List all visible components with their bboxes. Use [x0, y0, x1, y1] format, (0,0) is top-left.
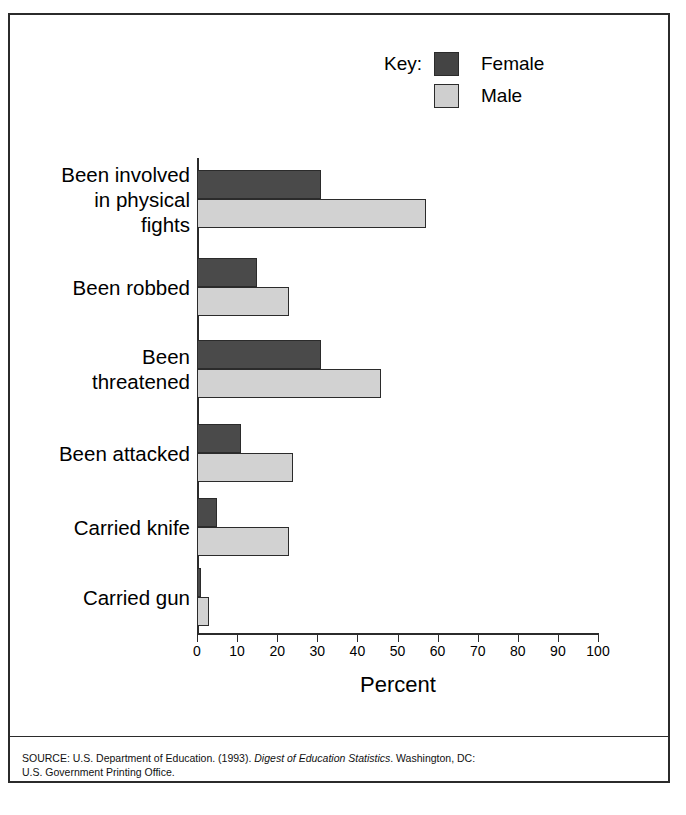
x-axis-tick: [197, 635, 198, 642]
x-axis-tick-label: 10: [217, 643, 257, 659]
x-axis-tick-label: 30: [297, 643, 337, 659]
x-axis-tick-label: 70: [458, 643, 498, 659]
source-line1-suffix: . Washington, DC:: [390, 752, 475, 764]
x-axis-tick: [277, 635, 278, 642]
category-label: Been attacked: [5, 441, 190, 466]
plot-area: [197, 158, 598, 633]
category-label-line: Been attacked: [5, 441, 190, 466]
legend-row-female: Key: Female: [372, 48, 622, 80]
x-axis-tick-label: 90: [538, 643, 578, 659]
bar-male: [197, 453, 293, 482]
source-line1-italic: Digest of Education Statistics: [254, 752, 390, 764]
bar-female: [197, 170, 321, 199]
x-axis-tick: [518, 635, 519, 642]
x-axis-tick-label: 100: [578, 643, 618, 659]
category-label: Carried gun: [5, 585, 190, 610]
bar-female: [197, 340, 321, 369]
category-label: Beenthreatened: [5, 344, 190, 394]
x-axis-tick: [598, 635, 599, 642]
x-axis-tick-label: 80: [498, 643, 538, 659]
bar-female: [197, 258, 257, 287]
x-axis-tick: [478, 635, 479, 642]
category-label-line: threatened: [5, 369, 190, 394]
legend-swatch-male-icon: [434, 84, 459, 108]
source-line2: U.S. Government Printing Office.: [22, 766, 175, 778]
bar-male: [197, 199, 426, 228]
category-label-line: Been robbed: [5, 275, 190, 300]
category-label: Carried knife: [5, 515, 190, 540]
source-divider: [10, 736, 668, 737]
x-axis-title: Percent: [197, 672, 599, 698]
source-note: SOURCE: U.S. Department of Education. (1…: [22, 752, 642, 779]
chart-legend: Key: Female Male: [372, 48, 622, 112]
source-line1-prefix: SOURCE: U.S. Department of Education. (1…: [22, 752, 254, 764]
x-axis-tick: [558, 635, 559, 642]
x-axis-tick: [357, 635, 358, 642]
category-label: Been involvedin physicalfights: [5, 162, 190, 237]
category-label-line: Been involved: [5, 162, 190, 187]
category-label-line: in physical: [5, 187, 190, 212]
legend-row-male: Male: [372, 80, 622, 112]
bar-male: [197, 287, 289, 316]
bar-male: [197, 527, 289, 556]
category-label-line: Carried gun: [5, 585, 190, 610]
bar-female: [197, 424, 241, 453]
category-label-line: Carried knife: [5, 515, 190, 540]
x-axis-tick-label: 20: [257, 643, 297, 659]
legend-label-female: Female: [459, 53, 544, 75]
x-axis-tick-label: 60: [418, 643, 458, 659]
category-axis-labels: Been involvedin physicalfightsBeen robbe…: [0, 0, 190, 815]
legend-key-label: Key:: [372, 53, 434, 75]
category-label: Been robbed: [5, 275, 190, 300]
x-axis-tick: [317, 635, 318, 642]
bar-male: [197, 597, 209, 626]
x-axis-tick: [237, 635, 238, 642]
legend-swatch-female-icon: [434, 52, 459, 76]
bar-female: [197, 498, 217, 527]
category-label-line: Been: [5, 344, 190, 369]
bar-male: [197, 369, 381, 398]
x-axis-tick-label: 40: [337, 643, 377, 659]
x-axis-tick: [398, 635, 399, 642]
legend-label-male: Male: [459, 85, 522, 107]
x-axis-tick-label: 0: [177, 643, 217, 659]
x-axis-tick-label: 50: [378, 643, 418, 659]
bar-female: [197, 568, 201, 597]
category-label-line: fights: [5, 212, 190, 237]
x-axis-tick: [438, 635, 439, 642]
